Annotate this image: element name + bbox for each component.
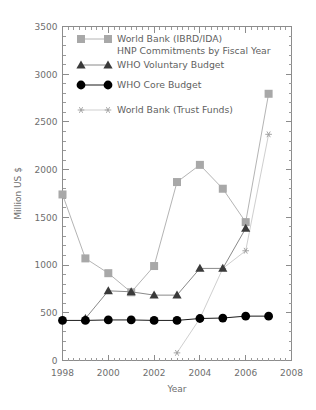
legend-label: WHO Voluntary Budget — [117, 59, 225, 70]
y-tick-label: 2500 — [35, 117, 58, 127]
chart-legend: World Bank (IBRD/IDA)HNP Commitments by … — [76, 33, 270, 115]
y-tick-label: 0 — [52, 356, 58, 366]
data-point-circle — [104, 316, 113, 325]
legend-marker-square — [104, 35, 112, 43]
chart-figure: 0500100015002000250030003500199820002002… — [0, 0, 316, 410]
legend-entry-circle: WHO Core Budget — [77, 79, 202, 90]
legend-label: WHO Core Budget — [117, 79, 202, 90]
legend-marker-circle — [104, 81, 113, 90]
x-tick-label: 2008 — [280, 368, 303, 378]
data-point-square — [81, 254, 89, 262]
legend-label: World Bank (IBRD/IDA) — [117, 33, 222, 44]
legend-marker-triangle — [103, 60, 112, 68]
data-point-circle — [58, 316, 67, 325]
data-point-circle — [264, 312, 273, 321]
chart-canvas: 0500100015002000250030003500199820002002… — [0, 0, 316, 410]
data-point-circle — [127, 316, 136, 325]
data-point-square — [59, 190, 67, 198]
legend-label: World Bank (Trust Funds) — [117, 104, 233, 115]
legend-label-second-line: HNP Commitments by Fiscal Year — [117, 45, 271, 56]
data-point-square — [196, 161, 204, 169]
data-point-circle — [173, 316, 182, 325]
legend-marker-triangle — [76, 60, 85, 68]
legend-entry-star: World Bank (Trust Funds) — [78, 104, 233, 115]
y-tick-label: 500 — [40, 308, 57, 318]
x-tick-label: 2004 — [188, 368, 211, 378]
x-tick-label: 2006 — [234, 368, 257, 378]
x-tick-label: 2002 — [143, 368, 166, 378]
y-tick-label: 3000 — [35, 70, 58, 80]
x-axis-title: Year — [166, 384, 186, 394]
data-series — [58, 90, 273, 356]
data-point-circle — [241, 312, 250, 321]
series-line — [63, 316, 269, 320]
data-point-circle — [81, 316, 90, 325]
data-point-square — [265, 90, 273, 98]
series-square — [59, 90, 273, 296]
axis-labels: YearMillion US $ — [13, 167, 187, 393]
data-point-square — [150, 262, 158, 270]
legend-entry-triangle: WHO Voluntary Budget — [76, 59, 224, 70]
data-point-circle — [150, 316, 159, 325]
legend-marker-square — [77, 35, 85, 43]
data-point-square — [219, 185, 227, 193]
y-tick-label: 1000 — [35, 260, 58, 270]
series-line — [63, 94, 269, 292]
data-point-square — [104, 269, 112, 277]
y-tick-label: 3500 — [35, 22, 58, 32]
data-point-triangle — [218, 264, 227, 272]
y-tick-label: 2000 — [35, 165, 58, 175]
series-circle — [58, 312, 273, 325]
data-point-circle — [196, 314, 205, 323]
legend-marker-circle — [77, 81, 86, 90]
x-tick-label: 1998 — [51, 368, 74, 378]
data-point-triangle — [104, 286, 113, 294]
y-tick-label: 1500 — [35, 213, 58, 223]
x-tick-label: 2000 — [97, 368, 120, 378]
data-point-circle — [218, 314, 227, 323]
axes: 0500100015002000250030003500199820002002… — [35, 22, 304, 378]
y-axis-title: Million US $ — [13, 167, 23, 220]
data-point-square — [173, 178, 181, 186]
data-point-triangle — [195, 264, 204, 272]
legend-entry-square: World Bank (IBRD/IDA)HNP Commitments by … — [77, 33, 271, 56]
